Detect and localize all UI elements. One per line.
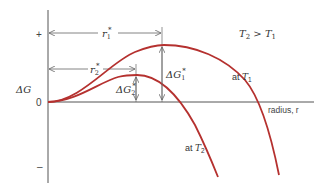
condition-label: T2 > T1 [239, 28, 276, 41]
svg-text:T2 > T1: T2 > T1 [239, 28, 276, 41]
dg1-barrier-label: ΔG1* [165, 67, 186, 82]
dg2-barrier-label: ΔG2* [115, 82, 136, 97]
curve-at-t1 [48, 45, 279, 175]
y-tick-zero: 0 [36, 97, 42, 108]
r1-critical-label: r1* [102, 26, 112, 41]
curve-t2-label: at T2 [185, 143, 205, 154]
y-tick-minus: – [37, 161, 43, 172]
curve-t1-label: at T1 [232, 72, 252, 83]
y-axis-label: ΔG [15, 84, 31, 95]
nucleation-free-energy-diagram: + 0 – ΔG radius, r T2 > T1 r1* r2* ΔG1* … [0, 0, 314, 193]
y-tick-plus: + [36, 29, 42, 40]
x-axis-label: radius, r [268, 105, 299, 115]
r2-critical-label: r2* [90, 62, 100, 77]
